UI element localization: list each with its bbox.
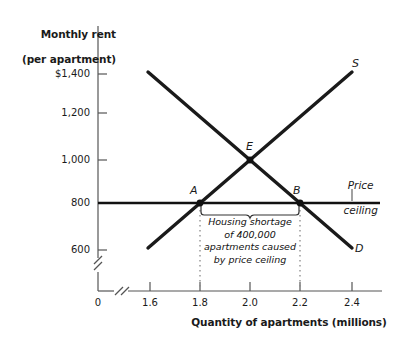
y-tick-label-1400: $1,400 bbox=[30, 68, 90, 80]
x-tick-label-2-2: 2.2 bbox=[280, 297, 320, 309]
y-tick-label-1200: 1,200 bbox=[30, 107, 90, 119]
shortage-line2: of 400,000 bbox=[224, 229, 275, 240]
point-a-marker bbox=[197, 200, 204, 207]
demand-curve-label: D bbox=[355, 243, 363, 256]
point-e-marker bbox=[247, 157, 254, 164]
price-ceiling-line1: Price bbox=[348, 179, 374, 191]
x-tick-label-1-8: 1.8 bbox=[180, 297, 220, 309]
y-tick-label-800: 800 bbox=[30, 197, 90, 209]
point-b-label: B bbox=[293, 185, 301, 198]
y-axis-break-icon bbox=[94, 256, 102, 270]
shortage-annotation: Housing shortage of 400,000 apartments c… bbox=[196, 216, 304, 267]
y-tick-label-1000: 1,000 bbox=[30, 154, 90, 166]
x-axis-ticks bbox=[150, 282, 352, 291]
supply-curve-label: S bbox=[352, 58, 359, 71]
x-tick-label-2-4: 2.4 bbox=[332, 297, 372, 309]
price-ceiling-annotation: Price ceiling bbox=[318, 166, 390, 230]
point-e-label: E bbox=[246, 141, 253, 154]
y-axis-title-line1: Monthly rent bbox=[41, 28, 116, 40]
x-tick-label-1-6: 1.6 bbox=[130, 297, 170, 309]
x-tick-label-2-0: 2.0 bbox=[230, 297, 270, 309]
x-axis-title: Quantity of apartments (millions) bbox=[186, 316, 392, 328]
point-b-marker bbox=[297, 200, 304, 207]
shortage-line4: by price ceiling bbox=[214, 254, 286, 265]
price-ceiling-line2: ceiling bbox=[344, 204, 378, 216]
supply-demand-price-ceiling-chart: Monthly rent (per apartment) Quantity of… bbox=[0, 0, 396, 344]
shortage-line1: Housing shortage bbox=[208, 216, 292, 227]
origin-label: 0 bbox=[78, 297, 118, 309]
data-points-group bbox=[197, 157, 304, 207]
y-axis-title-line2: (per apartment) bbox=[22, 53, 116, 65]
x-axis-break-icon bbox=[115, 287, 129, 295]
y-axis-ticks bbox=[98, 74, 107, 250]
shortage-line3: apartments caused bbox=[204, 241, 296, 252]
y-tick-label-600: 600 bbox=[30, 244, 90, 256]
point-a-label: A bbox=[190, 185, 198, 198]
